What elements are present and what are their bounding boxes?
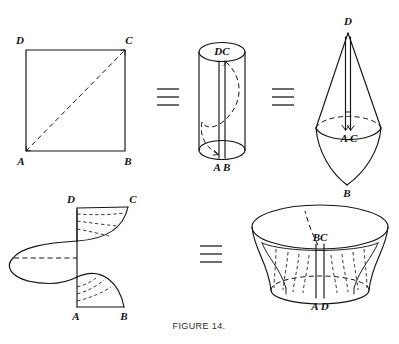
helicoid-top-edge-DC <box>77 207 128 208</box>
label-helicoid-C: C <box>129 193 137 205</box>
figure-14-container: D C A B <box>0 0 399 344</box>
helicoid-left-lobe-upper <box>13 241 77 258</box>
funnel-ruling-l1 <box>274 249 276 288</box>
label-cylinder-bottom-AB: A B <box>213 161 231 173</box>
label-funnel-bottom-AD: A D <box>310 300 328 312</box>
helicoid-left-lobe-lower <box>28 277 77 283</box>
panel-helicoid: D C A B <box>9 193 137 322</box>
helicoid-ruling-bot-1 <box>77 287 111 301</box>
equivalence-symbol-2 <box>272 89 294 105</box>
cylinder-helix-back <box>201 122 218 154</box>
cone-right-edge <box>348 33 381 128</box>
funnel-ruling-r2 <box>342 254 348 292</box>
label-square-C: C <box>125 34 133 46</box>
label-helicoid-D: D <box>66 193 75 205</box>
funnel-ruling-r1 <box>331 255 337 293</box>
label-cone-apex-D: D <box>343 15 352 27</box>
helicoid-lower-right-lobe <box>77 273 124 307</box>
square-diagonal-AC <box>26 50 125 151</box>
cylinder-bottom-front-arc <box>199 150 245 160</box>
helicoid-ruling-bot-3 <box>77 278 96 287</box>
figure-caption: FIGURE 14. <box>172 321 225 331</box>
label-cone-bottom-B: B <box>342 187 350 199</box>
funnel-inner-wall-right <box>354 243 378 288</box>
panel-square: D C A B <box>15 34 133 167</box>
cylinder-bottom-back-arc <box>199 141 245 151</box>
label-helicoid-B: B <box>119 310 127 322</box>
equivalence-symbol-3 <box>200 246 222 262</box>
helicoid-left-turn <box>9 258 28 281</box>
label-helicoid-A: A <box>71 310 79 322</box>
label-cylinder-top-DC: DC <box>213 45 230 57</box>
cone-left-edge <box>316 33 348 128</box>
label-funnel-top-BC: BC <box>312 231 328 243</box>
funnel-outer-left <box>252 227 271 290</box>
funnel-ruling-l3 <box>293 254 299 292</box>
funnel-ruling-r4 <box>364 249 367 288</box>
cylinder-helix-arrow-bottom <box>213 150 218 155</box>
figure-canvas: D C A B <box>0 0 399 344</box>
panel-cylinder: DC A B <box>199 43 245 174</box>
label-square-D: D <box>15 34 24 46</box>
cylinder-helix-front <box>202 62 239 127</box>
funnel-ruling-l2 <box>283 252 288 290</box>
equivalence-symbol-1 <box>157 89 179 105</box>
label-square-B: B <box>123 155 131 167</box>
panel-funnel: BC A D <box>252 205 388 312</box>
label-square-A: A <box>16 155 24 167</box>
helicoid-ruling-top-2 <box>77 221 118 226</box>
panel-cone: D A C B <box>316 15 381 199</box>
helicoid-ruling-top-1 <box>77 213 124 215</box>
funnel-outer-right <box>369 227 388 290</box>
label-cone-middle-AC: A C <box>340 132 358 144</box>
funnel-ruling-l4 <box>303 255 309 293</box>
